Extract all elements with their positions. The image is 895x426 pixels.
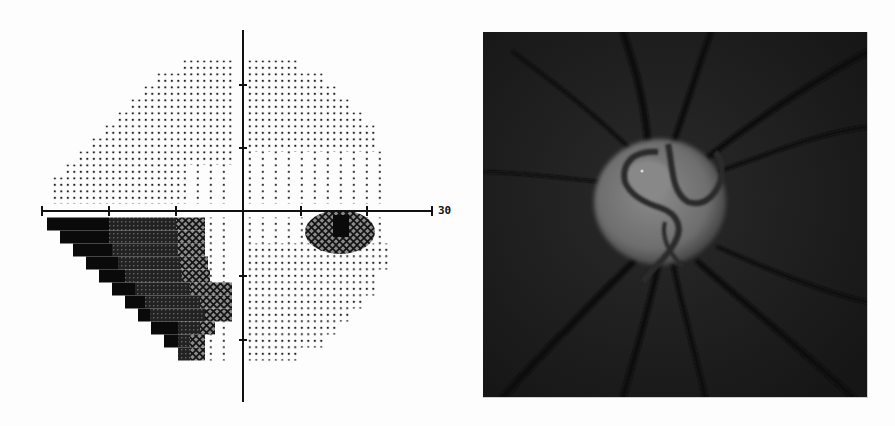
field-row: [105, 126, 235, 139]
field-row-relative-defect: [182, 270, 210, 283]
field-row-absolute-defect: [125, 296, 145, 309]
field-row: [232, 296, 235, 309]
field-row: [180, 165, 235, 178]
field-row-absolute-defect: [138, 309, 150, 322]
field-row: [205, 218, 235, 231]
field-row: [180, 178, 235, 191]
field-row: [79, 152, 235, 165]
field-row-absolute-defect: [73, 244, 112, 257]
axis-ticks: [42, 85, 432, 340]
field-row-relative-defect: [190, 283, 232, 296]
field-row-dense: [66, 165, 180, 178]
field-row: [205, 244, 235, 257]
field-row: [144, 87, 235, 100]
field-row: [208, 257, 235, 270]
field-row: [92, 139, 235, 152]
field-row: [232, 283, 235, 296]
optic-disc-image: [483, 32, 867, 397]
field-row: [205, 335, 235, 348]
field-row: [131, 100, 235, 113]
field-row-deep-defect: [135, 283, 190, 296]
axis-label-30: 30: [438, 204, 451, 217]
field-row-deep-defect: [118, 257, 180, 270]
field-row-absolute-defect: [112, 283, 135, 296]
field-row-relative-defect: [178, 231, 205, 244]
field-row-relative-defect: [176, 218, 205, 231]
field-row: [215, 322, 235, 335]
field-row-deep-defect: [178, 335, 190, 348]
fundus-photo: [483, 32, 868, 398]
field-row-relative-defect: [180, 257, 208, 270]
field-row-absolute-defect: [60, 231, 109, 244]
field-row: [248, 165, 388, 178]
field-row-dense: [53, 191, 180, 204]
field-row: [248, 335, 323, 348]
field-row-deep-defect: [109, 231, 178, 244]
field-row: [248, 191, 388, 204]
field-row: [248, 74, 323, 87]
field-row: [248, 61, 297, 74]
field-row: [248, 139, 375, 152]
visual-field-greyscale-map: [0, 0, 470, 426]
field-row: [248, 178, 388, 191]
field-row: [232, 309, 235, 322]
field-row-deep-defect: [150, 309, 205, 322]
field-row-deep-defect: [125, 270, 182, 283]
blind-spot-core: [333, 215, 349, 237]
field-row-deep-defect: [178, 348, 190, 361]
field-row-deep-defect: [112, 244, 178, 257]
field-row: [183, 61, 235, 74]
field-row-relative-defect: [200, 322, 215, 335]
field-row: [210, 270, 235, 283]
field-row: [248, 270, 375, 283]
field-row: [248, 126, 375, 139]
field-row-relative-defect: [190, 348, 205, 361]
field-row: [248, 87, 336, 100]
field-row: [205, 348, 235, 361]
field-row: [205, 231, 235, 244]
field-row-deep-defect: [178, 322, 200, 335]
field-row: [248, 348, 297, 361]
field-row: [248, 283, 375, 296]
field-row-deep-defect: [109, 218, 176, 231]
field-row-absolute-defect: [86, 257, 118, 270]
axes: [42, 30, 432, 402]
field-row-relative-defect: [178, 244, 205, 257]
field-row: [248, 296, 362, 309]
field-row: [248, 152, 388, 165]
field-row-absolute-defect: [99, 270, 125, 283]
field-row: [157, 74, 235, 87]
field-row-deep-defect: [145, 296, 200, 309]
field-row-absolute-defect: [151, 322, 178, 335]
field-row: [248, 257, 388, 270]
reflex-spot: [641, 170, 644, 173]
field-row: [180, 191, 235, 204]
field-row: [248, 322, 336, 335]
field-row: [248, 100, 349, 113]
field-row-dense: [53, 178, 180, 191]
field-row-relative-defect: [200, 296, 232, 309]
field-row-relative-defect: [205, 309, 232, 322]
field-row-absolute-defect: [47, 218, 109, 231]
field-row: [118, 113, 235, 126]
field-row: [248, 113, 362, 126]
field-row-absolute-defect: [164, 335, 178, 348]
field-row-relative-defect: [190, 335, 205, 348]
field-row: [248, 309, 349, 322]
visual-field-plot: 30: [0, 0, 470, 426]
